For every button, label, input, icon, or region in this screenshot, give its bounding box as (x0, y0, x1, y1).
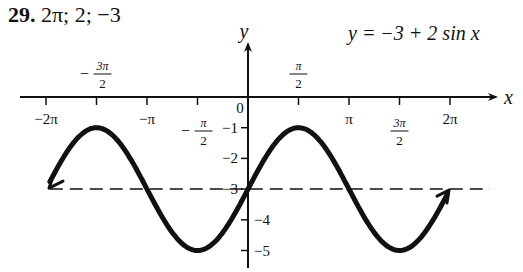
y-tick-label: −5 (254, 243, 270, 259)
sine-graph: xy−2π−3π2−π−π20π2π3π22π−1−2−3−4−5 (0, 0, 523, 272)
y-tick-label: −2 (222, 150, 238, 166)
tick-denominator: 2 (295, 76, 302, 91)
tick-numerator: π (200, 116, 207, 130)
tick-denominator: 2 (99, 76, 106, 91)
x-tick-label: −2π (34, 111, 58, 127)
tick-numerator: 3π (95, 59, 109, 73)
x-tick-label: −π (139, 111, 155, 127)
origin-label: 0 (236, 100, 244, 116)
tick-numerator: π (295, 59, 302, 73)
y-tick-label: −1 (222, 120, 238, 136)
y-axis-label: y (238, 20, 249, 43)
tick-minus: − (181, 122, 190, 139)
tick-minus: − (80, 65, 89, 82)
tick-denominator: 2 (200, 133, 207, 148)
x-axis-label: x (503, 86, 513, 108)
y-tick-label: −4 (254, 212, 270, 228)
tick-numerator: 3π (392, 116, 406, 130)
x-tick-label: π (345, 111, 353, 127)
x-tick-label: 2π (442, 111, 458, 127)
tick-denominator: 2 (396, 133, 403, 148)
